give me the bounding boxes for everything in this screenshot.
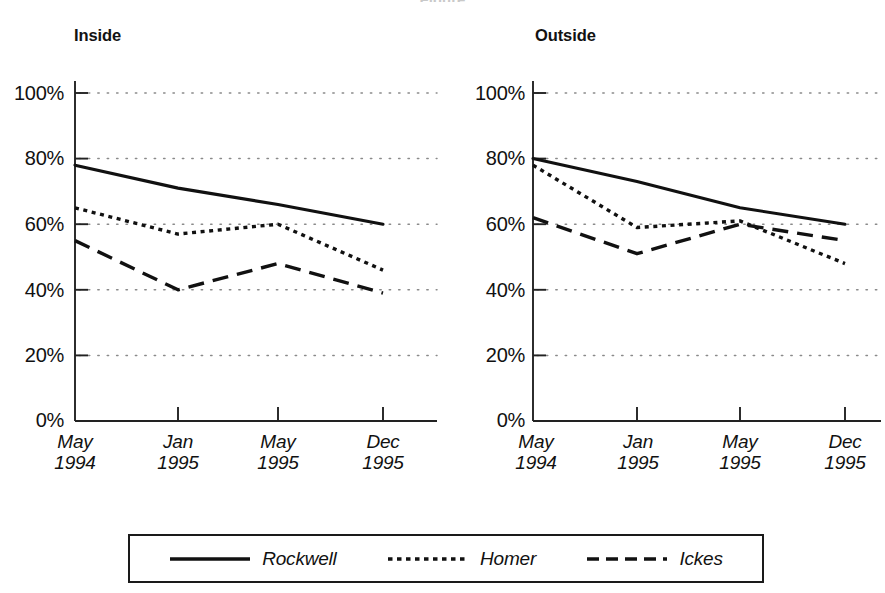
- y-tick-label-0-right: 0%: [461, 409, 525, 432]
- x-tick-label-0-left: May 1994: [25, 431, 125, 474]
- series-lines-inside: [75, 165, 383, 293]
- x-tick-label-3-right: Dec 1995: [795, 431, 885, 474]
- ticks-inside: [75, 93, 383, 421]
- x-tick-year: 1995: [128, 452, 228, 473]
- gridlines-outside: [537, 93, 881, 355]
- x-tick-year: 1995: [588, 452, 688, 473]
- ticks-outside: [533, 93, 845, 421]
- legend-item-rockwell: Rockwell: [169, 548, 336, 570]
- y-tick-label-40-left: 40%: [0, 279, 64, 302]
- y-tick-label-60-right: 60%: [461, 213, 525, 236]
- x-tick-month: May: [690, 431, 790, 452]
- y-tick-label-80-left: 80%: [0, 147, 64, 170]
- y-tick-label-100-left: 100%: [0, 82, 64, 105]
- chart-inside-svg: [0, 0, 440, 440]
- legend-item-homer: Homer: [387, 548, 536, 570]
- series-lines-outside: [533, 159, 845, 264]
- y-tick-label-80-right: 80%: [461, 147, 525, 170]
- legend-items: Rockwell Homer Ickes: [130, 536, 762, 581]
- legend-swatch-dotted-icon: [387, 554, 469, 564]
- legend-swatch-solid-icon: [169, 554, 251, 564]
- x-tick-year: 1995: [333, 452, 433, 473]
- x-tick-month: Jan: [128, 431, 228, 452]
- x-tick-month: Jan: [588, 431, 688, 452]
- x-tick-label-1-right: Jan 1995: [588, 431, 688, 474]
- series-line-rockwell: [75, 165, 383, 224]
- y-tick-label-20-right: 20%: [461, 344, 525, 367]
- legend-item-ickes: Ickes: [586, 548, 722, 570]
- x-tick-label-1-left: Jan 1995: [128, 431, 228, 474]
- axes-outside: [533, 81, 881, 421]
- x-tick-label-2-left: May 1995: [228, 431, 328, 474]
- chart-inside: [0, 0, 440, 440]
- y-tick-label-20-left: 20%: [0, 344, 64, 367]
- x-tick-year: 1995: [795, 452, 885, 473]
- chart-legend: Rockwell Homer Ickes: [128, 534, 764, 583]
- x-tick-month: May: [486, 431, 586, 452]
- x-tick-month: Dec: [795, 431, 885, 452]
- x-tick-month: May: [228, 431, 328, 452]
- legend-swatch-dashed-icon: [586, 554, 668, 564]
- legend-label-rockwell: Rockwell: [262, 548, 336, 570]
- x-tick-label-0-right: May 1994: [486, 431, 586, 474]
- series-line-homer: [533, 165, 845, 263]
- series-line-homer: [75, 208, 383, 270]
- legend-label-homer: Homer: [480, 548, 536, 570]
- x-tick-year: 1994: [486, 452, 586, 473]
- x-tick-year: 1995: [228, 452, 328, 473]
- x-tick-label-3-left: Dec 1995: [333, 431, 433, 474]
- y-tick-label-0-left: 0%: [0, 409, 64, 432]
- x-tick-label-2-right: May 1995: [690, 431, 790, 474]
- legend-label-ickes: Ickes: [679, 548, 722, 570]
- y-tick-label-60-left: 60%: [0, 213, 64, 236]
- y-tick-label-40-right: 40%: [461, 279, 525, 302]
- x-tick-year: 1995: [690, 452, 790, 473]
- axes-inside: [75, 81, 437, 421]
- y-tick-label-100-right: 100%: [461, 82, 525, 105]
- x-tick-month: May: [25, 431, 125, 452]
- figure-canvas: Figure Inside 100% 80% 60% 40% 20% 0% Ma…: [0, 0, 885, 593]
- x-tick-month: Dec: [333, 431, 433, 452]
- x-tick-year: 1994: [25, 452, 125, 473]
